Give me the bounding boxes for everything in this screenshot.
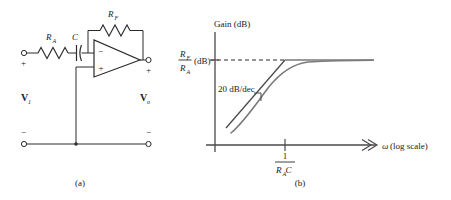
- input-positive-sign: +: [21, 58, 26, 68]
- passband-gain-axis-label: R F R A (dB): [179, 49, 211, 75]
- capacitor-plate-right: [80, 45, 82, 61]
- x-axis-title: (log scale): [390, 141, 428, 151]
- corner-frequency-numerator: 1: [283, 151, 288, 161]
- feedback-resistor-label: R: [107, 9, 114, 19]
- passband-gain-units: (dB): [194, 56, 211, 66]
- opamp-inverting-sign: −: [98, 46, 103, 56]
- feedback-resistor-label-subscript: F: [114, 15, 119, 21]
- panel-a-circuit: − + R A C R F + − +: [21, 9, 151, 188]
- feedback-resistor-symbol: [100, 25, 130, 36]
- x-axis-title-symbol: ω: [382, 141, 388, 151]
- y-axis-title: Gain (dB): [214, 19, 250, 29]
- panel-b-bode-plot: Gain (dB) R F R A (dB) 20 dB/dec 1 R A C: [179, 19, 428, 188]
- figure-root: − + R A C R F + − +: [0, 0, 451, 200]
- input-voltage-label-subscript: 1: [28, 99, 31, 105]
- input-terminal-negative-node: [21, 141, 26, 146]
- passband-gain-denominator: R: [179, 63, 186, 73]
- corner-frequency-axis-label: 1 R A C: [275, 151, 295, 177]
- panel-a-caption: (a): [75, 178, 85, 188]
- output-voltage-label-subscript: o: [147, 99, 150, 105]
- input-terminal-positive-node: [21, 50, 26, 55]
- output-terminal-negative-node: [146, 141, 151, 146]
- opamp-noninverting-sign: +: [99, 63, 104, 73]
- actual-response-curve: [231, 60, 373, 133]
- panel-b-caption: (b): [295, 178, 306, 188]
- input-negative-sign: −: [21, 127, 26, 137]
- output-terminal-positive-node: [146, 57, 151, 62]
- corner-frequency-denominator-tail: C: [286, 165, 293, 175]
- output-negative-sign: −: [146, 127, 151, 137]
- corner-frequency-denominator: R: [275, 165, 282, 175]
- asymptote-rising-segment: [226, 60, 285, 128]
- passband-gain-numerator: R: [179, 49, 186, 59]
- passband-gain-denominator-sub: A: [186, 69, 191, 75]
- input-resistor-label: R: [45, 32, 52, 42]
- input-resistor-symbol: [38, 48, 68, 59]
- ground-junction-dot: [74, 142, 77, 145]
- slope-annotation-label: 20 dB/dec: [218, 84, 255, 94]
- figure-canvas: − + R A C R F + − +: [0, 0, 451, 200]
- input-resistor-label-subscript: A: [52, 38, 57, 44]
- output-positive-sign: +: [146, 65, 151, 75]
- capacitor-label: C: [72, 32, 79, 42]
